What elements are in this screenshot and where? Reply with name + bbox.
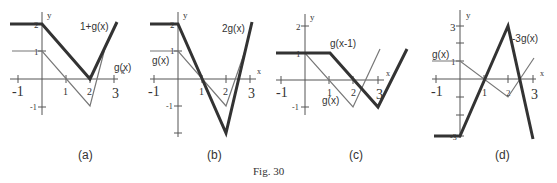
x-tick-label: 3 <box>248 86 255 101</box>
thick-curve-label: 1+g(x) <box>80 21 109 32</box>
x-tick-label: 2 <box>87 86 92 97</box>
x-axis-label: x <box>257 67 261 76</box>
y-tick-label: 3 <box>450 21 456 33</box>
y-tick-label: -1 <box>166 102 173 111</box>
x-tick-label: -1 <box>12 84 24 99</box>
panel-label: (b) <box>207 148 222 162</box>
x-axis-label: x <box>540 69 544 78</box>
x-tick-label: 3 <box>531 87 538 102</box>
thick-curve-label: 2g(x) <box>222 23 245 34</box>
thin-curve-label: g(x) <box>322 95 339 106</box>
thin-curve-label: g(x) <box>152 55 169 66</box>
panel-c: -1 1 2 3 2 1 -1 y x g(x-1) g(x) (c) <box>276 12 407 162</box>
panel-label: (c) <box>349 148 363 162</box>
panel-d: -1 1 2 3 3 1 -3 y x -3g(x) g(x) (d) <box>431 10 544 162</box>
curve-2g <box>150 22 252 133</box>
x-tick-label: 1 <box>199 86 204 97</box>
panel-label: (a) <box>78 148 93 162</box>
thick-curve-label: -3g(x) <box>512 33 538 44</box>
x-tick-label: 2 <box>223 86 228 97</box>
panel-b: -1 1 2 3 2 1 -1 y x 2g(x) g(x) (b) <box>148 10 261 162</box>
x-tick-label: -1 <box>148 84 160 99</box>
y-axis-label: y <box>183 10 188 20</box>
y-tick-label: -1 <box>292 103 299 112</box>
panel-label: (d) <box>495 148 510 162</box>
x-tick-label: -1 <box>276 85 288 100</box>
y-tick-label: -1 <box>30 103 37 112</box>
x-tick-label: 2 <box>351 87 356 98</box>
y-axis-label: y <box>47 10 52 20</box>
figure-30: -1 1 2 3 2 1 -1 y x 1+g(x) g(x) (a) -1 1… <box>0 0 557 183</box>
thin-curve-label: g(x) <box>432 49 449 60</box>
y-tick-label: 2 <box>296 22 301 32</box>
figure-caption: Fig. 30 <box>253 165 285 177</box>
y-axis-label: y <box>466 10 471 20</box>
panel-a: -1 1 2 3 2 1 -1 y x 1+g(x) g(x) (a) <box>10 10 131 162</box>
y-axis-label: y <box>310 12 315 22</box>
x-tick-label: 1 <box>63 86 68 97</box>
y-tick-label: 1 <box>34 47 39 57</box>
x-axis-label: x <box>386 69 390 78</box>
x-tick-label: 1 <box>482 87 487 98</box>
thin-curve-label: g(x) <box>114 62 131 73</box>
thick-curve-label: g(x-1) <box>330 38 356 49</box>
x-tick-label: -1 <box>431 84 443 99</box>
y-tick-label: 1 <box>451 57 456 67</box>
x-tick-label: 3 <box>112 86 119 101</box>
